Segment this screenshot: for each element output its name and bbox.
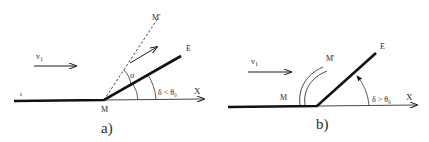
end-point-label: E bbox=[380, 42, 385, 51]
sigma-label: σ bbox=[130, 71, 135, 80]
end-point-label: E bbox=[186, 44, 191, 53]
delta-angle-arc bbox=[357, 76, 369, 105]
deflection-condition-label: δ > θ₀ bbox=[372, 95, 391, 104]
velocity-label: v1 bbox=[251, 57, 258, 67]
corner-label: M bbox=[280, 93, 287, 102]
tick-mark: ı bbox=[20, 90, 22, 98]
x-axis bbox=[317, 105, 417, 106]
deflection-condition-label: δ < θ₀ bbox=[158, 88, 177, 97]
delta-angle-arc-outer bbox=[148, 75, 156, 99]
velocity-label: v1 bbox=[36, 52, 43, 62]
corner-label: M bbox=[101, 105, 108, 114]
panel-a-caption: a) bbox=[101, 120, 113, 137]
x-axis-label: X bbox=[194, 86, 201, 96]
mach-line-label: M' bbox=[152, 13, 161, 22]
detached-shock-curve-outer bbox=[300, 67, 323, 105]
mach-line-dashed bbox=[104, 18, 158, 100]
panel-b-caption: b) bbox=[316, 116, 329, 133]
mach-line-label: M' bbox=[326, 54, 335, 63]
panel-b: v1 X M' M E δ > θ₀ b) bbox=[228, 42, 417, 133]
x-axis-label: X bbox=[406, 92, 413, 102]
shock-wave-diagram: v1 ı X M' E σ δ < θ₀ M a) v1 bbox=[0, 0, 429, 142]
wall-surface bbox=[14, 56, 181, 101]
x-axis bbox=[104, 99, 204, 100]
delta-angle-arc-inner bbox=[133, 84, 138, 100]
panel-a: v1 ı X M' E σ δ < θ₀ M a) bbox=[14, 13, 204, 137]
